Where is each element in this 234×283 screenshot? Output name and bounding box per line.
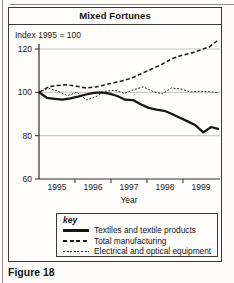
figure-caption: Figure 18	[8, 266, 55, 278]
x-tick-label-1998: 1998	[156, 182, 175, 192]
y-tick-label-100: 100	[18, 87, 32, 97]
series-line-fine-dashed	[39, 87, 219, 100]
legend-rows: Textiles and textile productsTotal manuf…	[63, 225, 217, 257]
x-tick-label-1995: 1995	[48, 182, 67, 192]
y-tick-label-60: 60	[23, 174, 33, 184]
x-axis-title: Year	[39, 195, 219, 205]
series-line-dashed	[39, 39, 219, 92]
legend-row: Electrical and optical equipment	[63, 246, 217, 257]
page-border-top	[10, 4, 234, 5]
legend-row: Total manufacturing	[63, 236, 217, 247]
legend-title: key	[63, 215, 217, 225]
x-tick-label-1999: 1999	[192, 182, 211, 192]
legend-sample-dashed-line	[63, 240, 89, 242]
x-tick-label-1997: 1997	[120, 182, 139, 192]
legend-box: key Textiles and textile productsTotal m…	[56, 213, 218, 257]
y-tick-label-120: 120	[18, 44, 32, 54]
legend-label: Electrical and optical equipment	[94, 246, 211, 256]
legend-label: Textiles and textile products	[94, 225, 196, 235]
legend-row: Textiles and textile products	[63, 225, 217, 236]
series-line-solid	[39, 92, 219, 132]
page-border-left	[2, 0, 3, 283]
page: Mixed Fortunes Index 1995 = 100 60801001…	[0, 0, 234, 283]
legend-sample-solid-line	[63, 229, 89, 232]
x-tick-label-1996: 1996	[84, 182, 103, 192]
legend-label: Total manufacturing	[94, 236, 166, 246]
figure-box: Mixed Fortunes Index 1995 = 100 60801001…	[8, 7, 222, 262]
legend-sample-fine-dashed-line	[63, 251, 89, 252]
y-tick-label-80: 80	[23, 131, 33, 141]
